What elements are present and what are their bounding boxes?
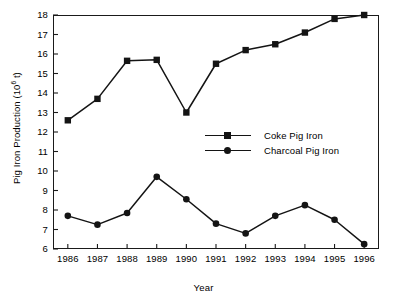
- y-axis-ticks: [53, 15, 58, 249]
- x-axis-tick-labels: 1986198719881989199019911992199319941995…: [0, 254, 407, 268]
- y-tick-label: 6: [26, 244, 48, 254]
- legend-item-coke-pig-iron: Coke Pig Iron: [205, 128, 339, 143]
- pig-iron-production-chart: 6789101112131415161718 Pig Iron Producti…: [0, 0, 407, 304]
- y-tick-label: 17: [26, 30, 48, 40]
- legend-label-coke-pig-iron: Coke Pig Iron: [264, 131, 323, 141]
- legend-item-charcoal-pig-iron: Charcoal Pig Iron: [205, 143, 339, 158]
- y-tick-label: 9: [26, 186, 48, 196]
- y-tick-label: 14: [26, 88, 48, 98]
- legend-key-square: [205, 129, 251, 143]
- legend-key-circle: [205, 144, 251, 158]
- y-tick-label: 15: [26, 69, 48, 79]
- x-tick-label: 1996: [344, 254, 384, 264]
- legend-label-charcoal-pig-iron: Charcoal Pig Iron: [264, 146, 339, 156]
- y-tick-label: 13: [26, 108, 48, 118]
- y-tick-label: 8: [26, 205, 48, 215]
- y-tick-label: 12: [26, 127, 48, 137]
- y-tick-label: 11: [26, 147, 48, 157]
- y-axis-title: Pig Iron Production (106 t): [10, 28, 22, 228]
- x-axis-ticks: [68, 244, 364, 249]
- y-axis-title-prefix: Pig Iron Production (10: [11, 85, 22, 184]
- y-tick-label: 10: [26, 166, 48, 176]
- y-tick-label: 16: [26, 49, 48, 59]
- y-axis-title-exponent: 6: [10, 81, 17, 85]
- chart-legend: Coke Pig Iron Charcoal Pig Iron: [205, 128, 339, 158]
- y-axis-title-suffix: t): [11, 72, 22, 81]
- x-axis-title: Year: [0, 282, 407, 293]
- y-tick-label: 18: [26, 10, 48, 20]
- circle-marker-icon: [224, 147, 231, 154]
- y-tick-label: 7: [26, 225, 48, 235]
- square-marker-icon: [224, 132, 231, 139]
